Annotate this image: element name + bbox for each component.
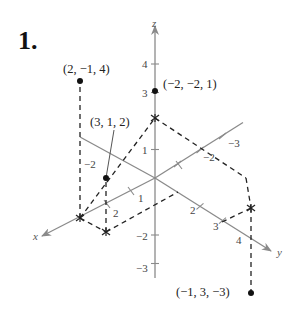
leader-line [106,130,114,178]
y-axis-line [244,123,273,252]
y-tick-label: −3 [228,137,240,149]
point-label: (3, 1, 2) [90,115,130,129]
point-neg1-3-neg3 [248,290,254,296]
point-label: (2, −1, 4) [63,62,110,76]
x-tick-label: 2 [113,207,119,219]
construction-lines [80,82,251,292]
y-axis [243,123,272,250]
z-tick-label: 1 [142,144,148,156]
y-tick-label: 4 [236,234,242,246]
point-2-neg1-4 [77,78,83,84]
y-tick-label: −2 [203,151,215,163]
z-tick-label: 3 [142,87,148,99]
z-tick-label: −3 [136,262,148,274]
y-tick-label: 2 [190,204,196,216]
y-tick-label: 3 [213,220,219,232]
x-tick-label: 1 [138,192,144,204]
point-neg2-neg2-1 [152,88,158,94]
3d-coordinate-diagram: (2, −1, 4) (−2, −2, 1) (3, 1, 2) (−1, 3,… [0,0,296,313]
z-axis-label: z [151,17,157,29]
point-label: (−1, 3, −3) [176,285,230,299]
z-tick-label: −2 [136,230,148,242]
point-3-1-2 [103,175,109,181]
z-tick-label: 4 [142,58,148,70]
y-axis-label: y [276,246,282,258]
x-axis-label: x [32,230,38,242]
x-tick-label: −2 [84,158,96,170]
point-label: (−2, −2, 1) [163,77,217,91]
